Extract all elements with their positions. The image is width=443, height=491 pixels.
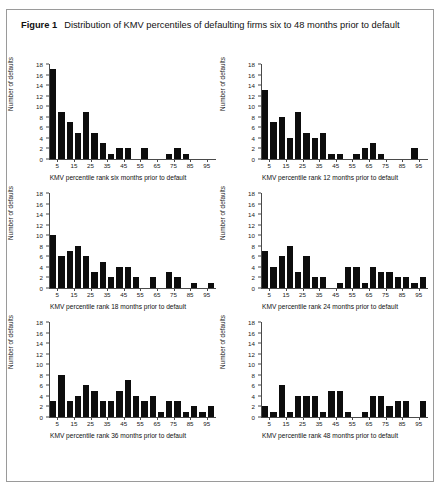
y-tick-mark [258, 137, 261, 138]
x-tick-label: 85 [399, 420, 406, 427]
x-tick-label: 65 [153, 420, 160, 427]
x-tick-label: 35 [104, 291, 111, 298]
chart-panel: Number of defaults0246810121416185152535… [11, 187, 225, 328]
y-tick-mark [258, 374, 261, 375]
y-tick-mark [46, 343, 49, 344]
x-tick-label: 55 [349, 162, 356, 169]
y-tick-mark [46, 417, 49, 418]
y-tick-mark [46, 395, 49, 396]
x-axis-caption: KMV percentile rank 12 months prior to d… [223, 174, 437, 181]
y-tick-mark [46, 95, 49, 96]
y-tick-mark [46, 106, 49, 107]
y-tick-mark [46, 288, 49, 289]
y-tick-label: 8 [11, 113, 43, 120]
y-tick-label: 0 [223, 156, 255, 163]
histogram-bar [362, 148, 368, 159]
y-tick-label: 8 [223, 371, 255, 378]
y-tick-mark [258, 148, 261, 149]
x-tick-label: 55 [349, 291, 356, 298]
y-tick-label: 6 [11, 382, 43, 389]
histogram-bar [67, 251, 73, 288]
y-tick-mark [46, 266, 49, 267]
histogram-bar [83, 256, 89, 288]
y-tick-label: 4 [11, 134, 43, 141]
y-tick-label: 18 [11, 61, 43, 68]
x-tick-label: 85 [399, 291, 406, 298]
y-tick-label: 2 [11, 274, 43, 281]
x-tick-label: 45 [120, 291, 127, 298]
y-tick-mark [258, 127, 261, 128]
y-tick-label: 14 [11, 211, 43, 218]
histogram-bar [183, 154, 189, 159]
y-tick-mark [258, 343, 261, 344]
y-tick-mark [258, 256, 261, 257]
histogram-bar [378, 154, 384, 159]
y-tick-label: 4 [11, 263, 43, 270]
y-tick-label: 6 [11, 124, 43, 131]
y-tick-label: 6 [223, 382, 255, 389]
y-tick-mark [46, 214, 49, 215]
y-tick-mark [258, 364, 261, 365]
x-tick-label: 25 [87, 420, 94, 427]
histogram-bar [337, 283, 343, 288]
histogram-bar [83, 112, 89, 160]
histogram-bar [270, 267, 276, 288]
histogram-bar [191, 283, 197, 288]
y-tick-mark [46, 406, 49, 407]
y-tick-mark [258, 116, 261, 117]
x-tick-label: 35 [316, 162, 323, 169]
histogram-bar [166, 272, 172, 288]
x-tick-label: 55 [137, 291, 144, 298]
x-tick-label: 5 [56, 291, 59, 298]
y-tick-mark [258, 245, 261, 246]
x-tick-label: 45 [120, 420, 127, 427]
y-tick-mark [258, 385, 261, 386]
histogram-bar [116, 267, 122, 288]
x-tick-label: 15 [70, 291, 77, 298]
histogram-bar [166, 154, 172, 159]
y-tick-label: 2 [223, 403, 255, 410]
y-tick-mark [258, 288, 261, 289]
histogram-bar [199, 412, 205, 417]
histogram-bar [262, 406, 268, 417]
y-tick-label: 16 [223, 71, 255, 78]
histogram-bar [353, 267, 359, 288]
histogram-bar [312, 138, 318, 159]
histogram-bar [125, 148, 131, 159]
y-tick-mark [258, 417, 261, 418]
y-tick-label: 16 [11, 329, 43, 336]
histogram-bar [345, 267, 351, 288]
x-tick-label: 75 [382, 420, 389, 427]
y-tick-label: 16 [11, 71, 43, 78]
y-tick-label: 6 [223, 124, 255, 131]
histogram-bar [67, 122, 73, 159]
y-tick-mark [258, 277, 261, 278]
histogram-bar [100, 401, 106, 417]
histogram-bar [174, 401, 180, 417]
histogram-bar [58, 256, 64, 288]
x-tick-label: 15 [70, 162, 77, 169]
histogram-bar [378, 396, 384, 417]
x-tick-label: 45 [120, 162, 127, 169]
y-tick-mark [46, 374, 49, 375]
histogram-bar [262, 251, 268, 288]
histogram-bar [370, 143, 376, 159]
histogram-bar [295, 272, 301, 288]
histogram-bar [75, 133, 81, 159]
histogram-bar [395, 401, 401, 417]
y-tick-mark [46, 364, 49, 365]
histogram-bar [208, 283, 214, 288]
histogram-bar [279, 385, 285, 417]
y-tick-label: 12 [223, 92, 255, 99]
y-tick-mark [258, 74, 261, 75]
histogram-bar [50, 401, 56, 417]
chart-panel-grid: Number of defaults0246810121416185152535… [7, 56, 435, 480]
x-tick-label: 55 [137, 420, 144, 427]
y-tick-label: 10 [223, 103, 255, 110]
y-tick-label: 10 [223, 232, 255, 239]
histogram-bar [58, 375, 64, 417]
x-tick-label: 25 [299, 420, 306, 427]
x-tick-label: 45 [332, 291, 339, 298]
histogram-bar [100, 143, 106, 159]
y-tick-mark [258, 266, 261, 267]
